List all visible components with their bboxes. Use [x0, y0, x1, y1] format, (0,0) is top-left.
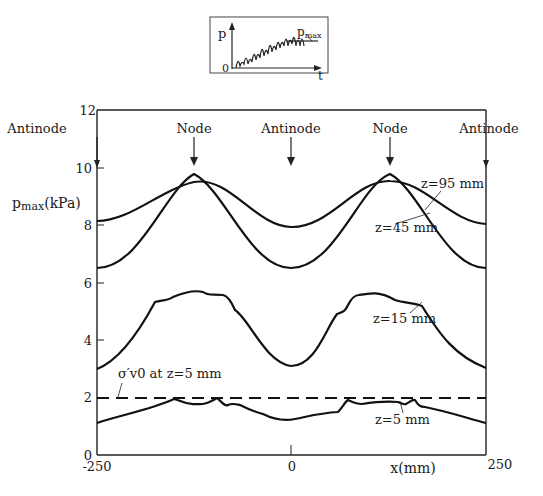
svg-text:2: 2 [84, 390, 92, 405]
inset-xlabel: t [318, 69, 323, 83]
reference-line-label: σ′v0 at z=5 mm [118, 366, 221, 381]
svg-text:6: 6 [84, 276, 92, 291]
marker-label-node-left: Node [176, 121, 212, 136]
marker-label-antinode-right: Antinode [458, 121, 519, 136]
series-curves [97, 174, 486, 423]
inset-ylabel: p [218, 26, 226, 41]
svg-text:8: 8 [84, 218, 92, 233]
marker-label-antinode-center: Antinode [260, 121, 321, 136]
y-axis-label: pmax(kPa) [12, 195, 81, 213]
svg-text:4: 4 [84, 333, 92, 348]
series-label-z45: z=45 mm [375, 220, 438, 235]
series-labels: z=95 mm z=45 mm z=15 mm z=5 mm [373, 176, 484, 427]
reference-line: σ′v0 at z=5 mm [97, 366, 486, 398]
chart: p 0 t pmax 0 2 4 6 8 10 12 -250 0 250 x(… [0, 0, 543, 496]
series-label-z5: z=5 mm [375, 412, 430, 427]
series-label-z15: z=15 mm [373, 311, 436, 326]
y-tick-labels: 0 2 4 6 8 10 12 [75, 103, 96, 463]
inset-origin: 0 [222, 62, 229, 75]
inset-diagram: p 0 t pmax [210, 17, 328, 83]
series-z15 [97, 291, 486, 369]
series-label-z95: z=95 mm [421, 176, 484, 191]
x-tick-labels: -250 0 250 [82, 457, 512, 474]
svg-text:250: 250 [488, 457, 513, 472]
marker-label-node-right: Node [372, 121, 408, 136]
x-axis-label: x(mm) [390, 460, 435, 476]
svg-text:-250: -250 [82, 459, 111, 474]
svg-text:10: 10 [75, 161, 92, 176]
svg-text:0: 0 [288, 459, 296, 474]
marker-label-antinode-left: Antinode [6, 121, 67, 136]
svg-text:12: 12 [79, 103, 96, 118]
